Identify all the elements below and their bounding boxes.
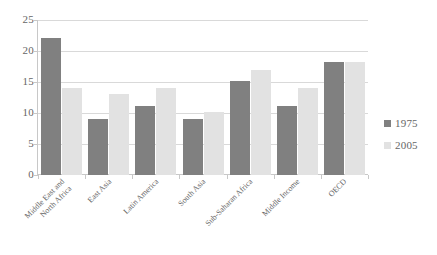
bar-1975-middle-income[interactable] [277, 106, 297, 175]
y-tick-label: 25 [2, 14, 34, 25]
x-category-label-line: Sub-Saharan Africa [204, 177, 255, 228]
y-tick-label: 15 [2, 76, 34, 87]
bar-1975-latin-america[interactable] [135, 106, 155, 175]
y-tick-label: 10 [2, 107, 34, 118]
legend-item-2005[interactable]: 2005 [384, 134, 437, 156]
x-category-label-line: Middle Income [261, 177, 302, 218]
bar-group [88, 20, 129, 175]
x-category-label: South Asia [176, 177, 207, 208]
y-tick-mark [33, 144, 38, 145]
y-tick-mark [33, 82, 38, 83]
bar-2005-latin-america[interactable] [156, 88, 176, 175]
bar-2005-middle-east-and-north-africa[interactable] [62, 88, 82, 175]
chart-legend: 1975 2005 [384, 112, 437, 156]
x-category-label-line: East Asia [85, 177, 113, 205]
x-tick-mark [132, 175, 133, 179]
bar-1975-south-asia[interactable] [183, 119, 203, 175]
x-category-label-line: Latin America [121, 177, 160, 216]
legend-item-1975[interactable]: 1975 [384, 112, 437, 134]
x-axis-category-labels: Middle East andNorth AfricaEast AsiaLati… [38, 177, 368, 255]
x-category-label: Latin America [121, 177, 160, 216]
bar-2005-oecd[interactable] [345, 62, 365, 175]
y-tick-mark [33, 20, 38, 21]
x-tick-mark [274, 175, 275, 179]
legend-label-2005: 2005 [395, 140, 418, 151]
x-category-label: Sub-Saharan Africa [204, 177, 255, 228]
x-tick-mark [38, 175, 39, 179]
bar-group [135, 20, 176, 175]
bar-2005-sub-saharan-africa[interactable] [251, 70, 271, 175]
x-category-label: Middle Income [261, 177, 302, 218]
bar-1975-east-asia[interactable] [88, 119, 108, 175]
bar-group [324, 20, 365, 175]
legend-label-1975: 1975 [395, 118, 418, 129]
bar-group [230, 20, 271, 175]
y-tick-label: 20 [2, 45, 34, 56]
bar-2005-middle-income[interactable] [298, 88, 318, 175]
legend-swatch-2005-icon [384, 142, 391, 149]
y-tick-label: 0 [2, 169, 34, 180]
bar-group [277, 20, 318, 175]
bars-layer [38, 20, 368, 175]
x-tick-mark [179, 175, 180, 179]
bar-group [183, 20, 224, 175]
x-tick-mark [368, 175, 369, 179]
bar-1975-oecd[interactable] [324, 62, 344, 175]
bar-1975-middle-east-and-north-africa[interactable] [41, 38, 61, 175]
bar-2005-south-asia[interactable] [204, 112, 224, 175]
x-tick-mark [227, 175, 228, 179]
y-tick-label: 5 [2, 138, 34, 149]
x-category-label: OECD [327, 177, 349, 199]
x-tick-mark [321, 175, 322, 179]
bar-1975-sub-saharan-africa[interactable] [230, 81, 250, 175]
y-tick-mark [33, 51, 38, 52]
x-category-label: East Asia [85, 177, 113, 205]
y-tick-mark [33, 113, 38, 114]
bar-chart: 0510152025 Middle East andNorth AfricaEa… [0, 0, 437, 255]
x-category-label-line: OECD [327, 177, 349, 199]
x-category-label-line: South Asia [176, 177, 207, 208]
legend-swatch-1975-icon [384, 120, 391, 127]
bar-2005-east-asia[interactable] [109, 94, 129, 175]
plot-area [38, 20, 368, 175]
bar-group [41, 20, 82, 175]
x-tick-mark [85, 175, 86, 179]
